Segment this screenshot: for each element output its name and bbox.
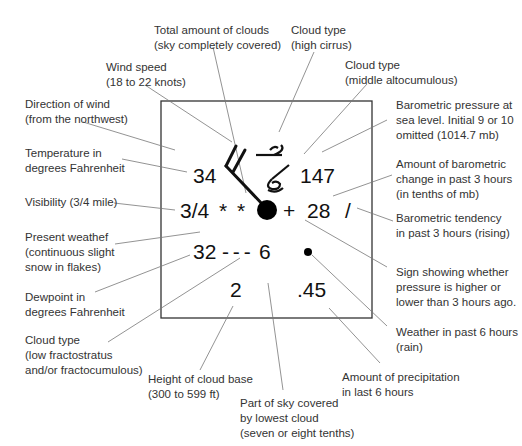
dewpoint-value: 32 — [193, 241, 216, 263]
label-tendency: Barometric tendency in past 3 hours (ris… — [396, 211, 510, 241]
visibility-value: 3/4 — [180, 200, 209, 222]
present-weather-snow-icon: * * — [219, 200, 247, 222]
pressure-tendency-icon: / — [345, 200, 351, 222]
label-lowest-cloud-cover: Part of sky covered by lowest cloud (sev… — [240, 396, 354, 441]
label-wind-direction: Direction of wind (from the northwest) — [25, 97, 128, 127]
lowest-cloud-amount: 6 — [259, 241, 271, 263]
label-total-clouds: Total amount of clouds (sky completely c… — [154, 23, 281, 53]
pressure-change-value: 28 — [307, 200, 330, 222]
label-cloud-base: Height of cloud base (300 to 599 ft) — [148, 372, 253, 402]
rain-dot-icon — [304, 248, 312, 256]
label-dewpoint: Dewpoint in degrees Fahrenheit — [25, 290, 125, 320]
cloud-base-value: 2 — [230, 279, 242, 301]
label-middle-cloud: Cloud type (middle altocumulous) — [345, 58, 458, 88]
label-wind-speed: Wind speed (18 to 22 knots) — [106, 60, 186, 90]
low-cloud-symbol: - - - — [222, 241, 250, 263]
label-past-weather: Weather in past 6 hours (rain) — [396, 325, 518, 355]
label-precipitation: Amount of precipitation in last 6 hours — [342, 370, 460, 400]
temperature-value: 34 — [193, 165, 216, 187]
label-pressure-change: Amount of barometric change in past 3 ho… — [396, 157, 512, 202]
cirrus-cloud-icon — [256, 145, 282, 155]
precipitation-value: .45 — [297, 279, 326, 301]
label-temperature: Temperature in degrees Fahrenheit — [25, 146, 125, 176]
label-high-cloud: Cloud type (high cirrus) — [291, 23, 352, 53]
altocumulus-cloud-icon — [268, 165, 289, 192]
pressure-value: 147 — [300, 165, 335, 187]
label-visibility: Visibility (3/4 mile) — [25, 195, 117, 210]
sky-cover-icon — [257, 200, 277, 220]
pressure-sign: + — [283, 200, 295, 222]
label-low-cloud-type: Cloud type (low fractostratus and/or fra… — [25, 333, 143, 378]
label-present-weather: Present weathef (continuous slight snow … — [25, 230, 115, 275]
label-pressure: Barometric pressure at sea level. Initia… — [396, 98, 514, 143]
label-pressure-sign: Sign showing whether pressure is higher … — [396, 265, 516, 310]
